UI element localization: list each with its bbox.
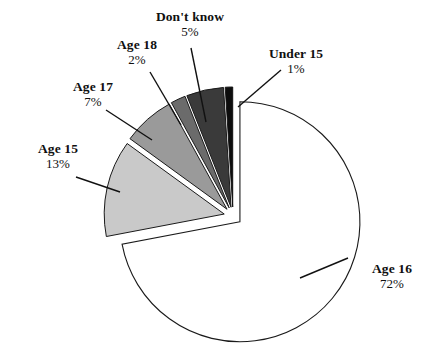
pie-label-under-15-pct: 1% xyxy=(269,62,323,76)
pie-chart: Don't know 5% Age 18 2% Age 17 7% Age 15… xyxy=(0,0,433,362)
pie-label-age-16-pct: 72% xyxy=(372,277,412,291)
pie-label-age-15: Age 15 13% xyxy=(38,142,78,171)
pie-label-under-15-name: Under 15 xyxy=(269,47,323,62)
pie-label-age-16: Age 16 72% xyxy=(372,262,412,291)
pie-label-age-17-pct: 7% xyxy=(73,95,113,109)
pie-label-dont-know: Don't know 5% xyxy=(156,10,224,39)
pie-label-age-18-name: Age 18 xyxy=(117,38,157,53)
pie-label-age-15-pct: 13% xyxy=(38,157,78,171)
pie-label-age-15-name: Age 15 xyxy=(38,142,78,157)
pie-label-under-15: Under 15 1% xyxy=(269,47,323,76)
pie-label-dont-know-name: Don't know xyxy=(156,10,224,25)
pie-chart-canvas xyxy=(0,0,433,362)
pie-label-age-17: Age 17 7% xyxy=(73,80,113,109)
pie-label-age-18: Age 18 2% xyxy=(117,38,157,67)
pie-label-age-17-name: Age 17 xyxy=(73,80,113,95)
pie-label-age-18-pct: 2% xyxy=(117,53,157,67)
pie-label-dont-know-pct: 5% xyxy=(156,25,224,39)
pie-label-age-16-name: Age 16 xyxy=(372,262,412,277)
